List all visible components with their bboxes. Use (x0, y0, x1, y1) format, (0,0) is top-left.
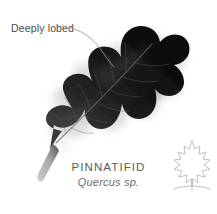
callout-leader-line (60, 24, 122, 68)
leaf-specimen-card: Deeply lobed PINNATIFID Quercus sp. (0, 0, 217, 214)
leaf-outline-icon (169, 138, 215, 192)
